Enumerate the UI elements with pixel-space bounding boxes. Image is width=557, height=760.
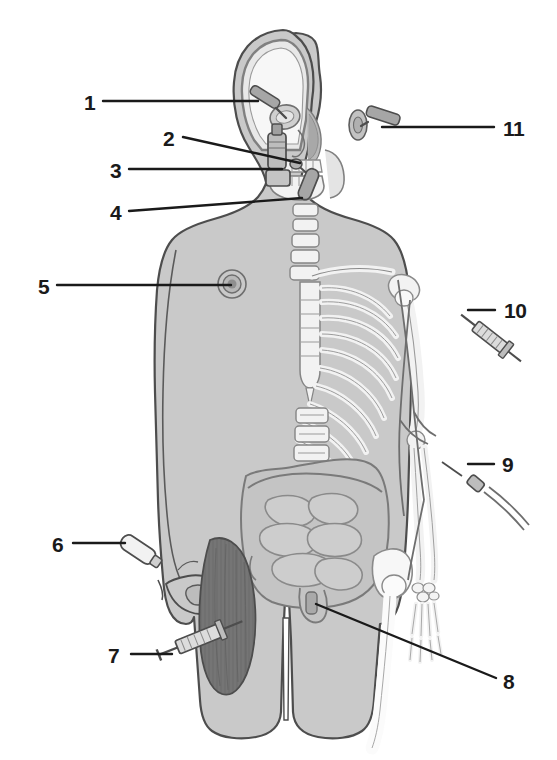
label-1: 1: [84, 92, 95, 113]
label-2: 2: [163, 128, 174, 149]
label-4: 4: [110, 202, 121, 223]
label-6: 6: [52, 534, 63, 555]
head-and-skull: [234, 30, 367, 200]
body-illustration: [0, 0, 557, 760]
label-7: 7: [108, 645, 119, 666]
label-8: 8: [503, 671, 514, 692]
ear-dropper-device: [361, 105, 401, 126]
cervical-vertebrae: [290, 204, 319, 280]
lumbar-vertebrae: [294, 408, 329, 461]
vastus-lateralis-muscle: [199, 538, 255, 695]
label-11: 11: [503, 118, 524, 139]
label-3: 3: [110, 160, 121, 181]
label-9: 9: [502, 454, 513, 475]
iv-cannula-device: [442, 462, 529, 530]
label-10: 10: [504, 300, 526, 321]
anatomical-diagram: 1 2 3 4 5 6 7 8 9 10 11: [0, 0, 557, 760]
label-5: 5: [38, 276, 49, 297]
forearm-skeleton: [407, 431, 441, 662]
